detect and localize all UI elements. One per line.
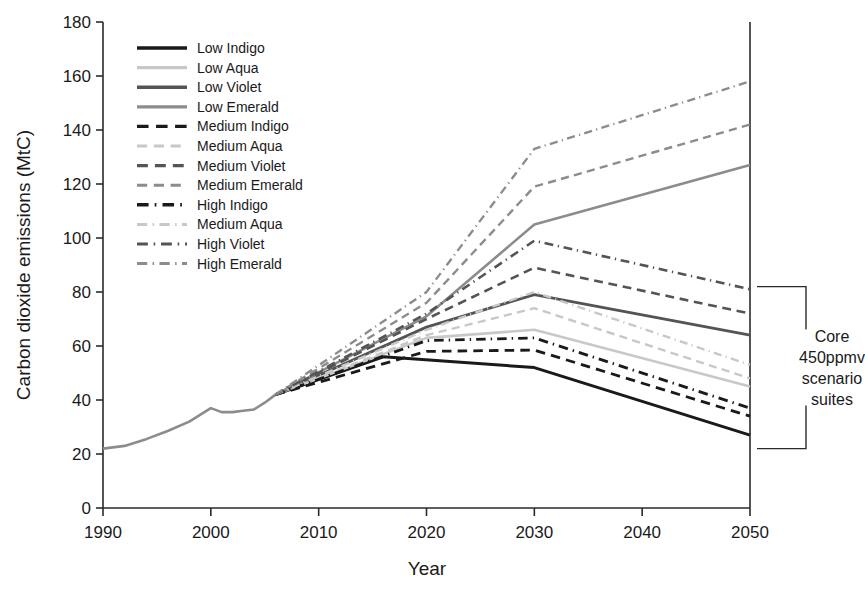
- y-tick-label: 80: [72, 283, 91, 302]
- series-line-8: [276, 338, 750, 408]
- series-line-10: [276, 241, 750, 395]
- legend-label-4: Medium Indigo: [197, 118, 289, 134]
- legend-label-1: Low Aqua: [197, 60, 259, 76]
- legend-label-9: Medium Aqua: [197, 216, 283, 232]
- annotation-line-2: 450ppmv: [799, 349, 865, 366]
- chart-figure: 0204060801001201401601801990200020102020…: [0, 0, 865, 590]
- x-axis-title: Year: [408, 558, 447, 579]
- emissions-line-chart: 0204060801001201401601801990200020102020…: [0, 0, 865, 590]
- legend-label-10: High Violet: [197, 236, 265, 252]
- y-tick-label: 0: [82, 499, 91, 518]
- y-tick-label: 100: [63, 229, 91, 248]
- series-line-2: [276, 295, 750, 395]
- annotation-line-1: Core: [815, 328, 850, 345]
- legend-label-11: High Emerald: [197, 256, 282, 272]
- axis-layer: 0204060801001201401601801990200020102020…: [63, 13, 769, 542]
- x-tick-label: 2010: [300, 523, 338, 542]
- x-tick-label: 2050: [731, 523, 769, 542]
- series-line-7: [276, 125, 750, 395]
- y-tick-label: 40: [72, 391, 91, 410]
- legend-label-5: Medium Aqua: [197, 138, 283, 154]
- x-tick-label: 2020: [408, 523, 446, 542]
- legend-label-8: High Indigo: [197, 197, 268, 213]
- legend-label-6: Medium Violet: [197, 158, 286, 174]
- series-historical: [103, 395, 276, 449]
- legend-label-3: Low Emerald: [197, 99, 279, 115]
- series-line-11: [276, 81, 750, 394]
- y-tick-label: 120: [63, 175, 91, 194]
- y-axis-title: Carbon dioxide emissions (MtC): [13, 130, 34, 400]
- legend-label-2: Low Violet: [197, 79, 261, 95]
- x-tick-label: 2000: [192, 523, 230, 542]
- annotation-layer: Core450ppmvscenariosuites: [757, 287, 865, 449]
- legend-label-7: Medium Emerald: [197, 177, 303, 193]
- y-tick-label: 60: [72, 337, 91, 356]
- legend-layer: Low IndigoLow AquaLow VioletLow EmeraldM…: [137, 40, 303, 272]
- y-tick-label: 180: [63, 13, 91, 32]
- y-tick-label: 160: [63, 67, 91, 86]
- x-tick-label: 2030: [515, 523, 553, 542]
- core-scenario-bracket: [757, 287, 806, 449]
- x-tick-label: 2040: [623, 523, 661, 542]
- series-line-9: [276, 292, 750, 395]
- legend-label-0: Low Indigo: [197, 40, 265, 56]
- y-tick-label: 140: [63, 121, 91, 140]
- annotation-line-4: suites: [811, 391, 853, 408]
- annotation-line-3: scenario: [802, 370, 863, 387]
- y-tick-label: 20: [72, 445, 91, 464]
- x-tick-label: 1990: [84, 523, 122, 542]
